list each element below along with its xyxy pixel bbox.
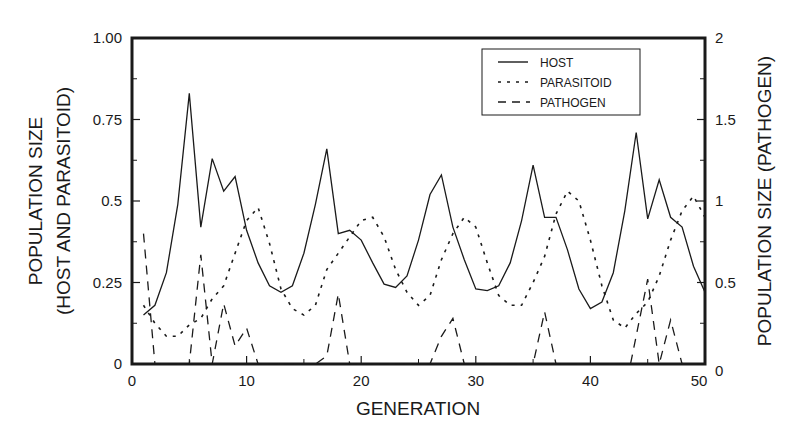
legend-host-label: HOST: [540, 56, 574, 70]
legend-parasitoid-label: PARASITOID: [540, 76, 612, 90]
host-parasitoid-pathogen-chart: 00.250.50.751.00 00.511.52 01020304050 G…: [0, 0, 792, 435]
x-tick-label: 0: [128, 372, 136, 389]
x-tick-label: 30: [467, 372, 484, 389]
series-host-line: [144, 93, 706, 315]
legend: HOST PARASITOID PATHOGEN: [482, 49, 640, 115]
y2-tick-label: 1: [715, 192, 723, 209]
right-axis-ticks: 00.511.52: [697, 29, 736, 379]
y-axis-title-line2: (HOST AND PARASITOID): [53, 87, 74, 315]
x-tick-label: 40: [582, 372, 599, 389]
y2-tick-label: 0.5: [715, 274, 736, 291]
y-tick-label: 0.25: [93, 274, 122, 291]
y-tick-label: 0.5: [101, 192, 122, 209]
y-tick-label: 0.75: [93, 111, 122, 128]
y2-tick-label: 0: [715, 362, 723, 379]
y2-tick-label: 2: [715, 29, 723, 46]
y-tick-label: 1.00: [93, 29, 122, 46]
y-tick-label: 0: [114, 355, 122, 372]
x-axis-ticks: 01020304050: [128, 356, 708, 389]
series-parasitoid-line: [144, 191, 706, 336]
legend-pathogen-label: PATHOGEN: [540, 96, 606, 110]
series-layer: [144, 93, 706, 364]
x-tick-label: 20: [353, 372, 370, 389]
y-axis-title-line1: POPULATION SIZE: [25, 117, 46, 286]
y2-axis-title: POPULATION SIZE (PATHOGEN): [754, 56, 775, 346]
x-axis-title: GENERATION: [356, 398, 480, 419]
x-tick-label: 50: [691, 372, 708, 389]
y2-tick-label: 1.5: [715, 111, 736, 128]
x-tick-label: 10: [238, 372, 255, 389]
